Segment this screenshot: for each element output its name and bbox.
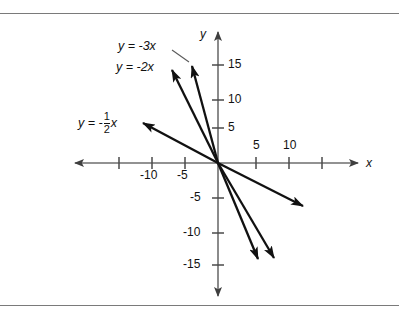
graph-figure: y x -10 -5 5 10 15 10 5 -5 -10 -15 y = -… <box>0 0 399 317</box>
equation-half-prefix: y = - <box>78 116 103 130</box>
y-tick-label-10: 10 <box>228 93 241 105</box>
y-tick-label-5: 5 <box>228 121 235 133</box>
y-axis-label: y <box>200 28 206 40</box>
y-tick-label-neg15: -15 <box>183 258 200 270</box>
y-tick-label-15: 15 <box>228 58 241 70</box>
fraction-denominator: 2 <box>104 123 110 136</box>
x-tick-label-neg10: -10 <box>140 169 157 181</box>
x-tick-label-5: 5 <box>253 139 260 151</box>
y-tick-label-neg10: -10 <box>183 226 200 238</box>
equation-label-minus-half-x: y = -12x <box>78 112 117 136</box>
line-y-equals-minus-half-x <box>143 123 303 206</box>
equation-half-suffix: x <box>111 116 117 130</box>
leader-line-minus-3x <box>172 50 189 62</box>
equation-label-minus-2x: y = -2x <box>116 61 154 74</box>
equation-label-minus-3x: y = -3x <box>118 40 156 53</box>
x-tick-label-10: 10 <box>283 139 296 151</box>
x-axis-label: x <box>366 157 372 169</box>
fraction-one-half: 12 <box>104 111 110 135</box>
x-tick-label-neg5: -5 <box>177 169 188 181</box>
fraction-numerator: 1 <box>104 111 110 123</box>
y-tick-label-neg5: -5 <box>190 191 201 203</box>
